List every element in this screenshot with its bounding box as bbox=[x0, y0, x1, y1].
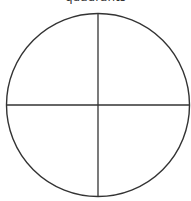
quadrant-circle-diagram bbox=[0, 0, 191, 201]
